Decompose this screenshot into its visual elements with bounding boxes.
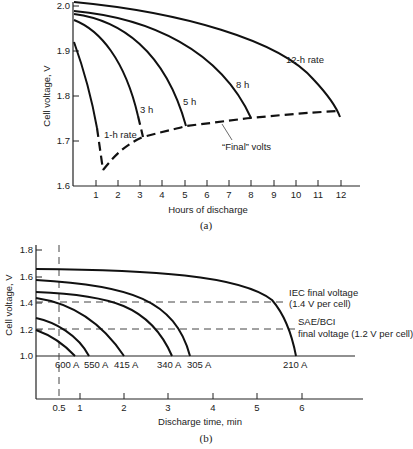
chart-b-ytick: 1.2 bbox=[20, 324, 33, 335]
chart-b-caption: (b) bbox=[200, 432, 213, 445]
chart-b-xtick: 4 bbox=[210, 402, 215, 413]
chart-a-ytick: 1.9 bbox=[57, 45, 70, 56]
chart-b-xtick: 6 bbox=[299, 402, 304, 413]
label-1h-rate: 1-h rate bbox=[104, 129, 137, 140]
label-8h: 8 h bbox=[236, 79, 249, 90]
label-final-volts: “Final” volts bbox=[222, 141, 271, 152]
chart-a-caption: (a) bbox=[200, 219, 213, 232]
chart-a-xtick: 7 bbox=[226, 189, 231, 200]
chart-b-ytick: 1.0 bbox=[20, 350, 33, 361]
chart-b-x-label: Discharge time, min bbox=[158, 416, 242, 427]
chart-a-xtick: 2 bbox=[115, 189, 120, 200]
chart-b-xtick: 2 bbox=[121, 402, 126, 413]
curve-340A bbox=[36, 292, 172, 356]
chart-a-xtick: 12 bbox=[336, 189, 347, 200]
curve-5h bbox=[74, 14, 186, 126]
label-iec-line2: (1.4 V per cell) bbox=[289, 298, 351, 309]
chart-a-ytick: 2.0 bbox=[57, 0, 70, 11]
chart-b-xtick: 3 bbox=[165, 402, 170, 413]
label-415A: 415 A bbox=[114, 359, 139, 370]
chart-b-ytick: 1.6 bbox=[20, 271, 33, 282]
label-3h: 3 h bbox=[140, 104, 153, 115]
chart-b: 1.8 1.6 1.4 1.2 1.0 0.5 1 2 3 4 5 6 Cell… bbox=[3, 244, 413, 445]
curve-1h bbox=[74, 42, 97, 128]
chart-a-ytick: 1.8 bbox=[57, 90, 70, 101]
label-sae-line2: final voltage (1.2 V per cell) bbox=[298, 328, 413, 339]
label-12h-rate: 12-h rate bbox=[286, 54, 324, 65]
chart-b-ytick: 1.4 bbox=[20, 297, 33, 308]
final-volts-leader bbox=[222, 124, 232, 140]
label-600A: 600 A bbox=[55, 359, 80, 370]
label-340A: 340 A bbox=[157, 359, 182, 370]
chart-a-y-label: Cell voltage, V bbox=[41, 65, 52, 127]
label-210A: 210 A bbox=[283, 359, 308, 370]
curve-1h-tail bbox=[97, 128, 103, 170]
chart-a-xtick: 6 bbox=[204, 189, 209, 200]
label-550A: 550 A bbox=[84, 359, 109, 370]
chart-b-xtick: 0.5 bbox=[52, 402, 65, 413]
curve-8h bbox=[74, 11, 251, 118]
chart-b-ytick: 1.8 bbox=[20, 244, 33, 255]
label-5h: 5 h bbox=[183, 96, 196, 107]
curve-415A bbox=[36, 298, 124, 356]
chart-a-xtick: 8 bbox=[248, 189, 253, 200]
chart-a: 2.0 1.9 1.8 1.7 1.6 1 2 3 4 5 6 7 8 9 10… bbox=[41, 0, 360, 232]
chart-a-ytick: 1.6 bbox=[57, 180, 70, 191]
chart-a-xtick: 10 bbox=[291, 189, 302, 200]
chart-a-xtick: 11 bbox=[313, 189, 323, 200]
label-305A: 305 A bbox=[187, 359, 212, 370]
curve-3h-tail bbox=[138, 116, 143, 137]
chart-b-xtick: 5 bbox=[254, 402, 259, 413]
label-sae-line1: SAE/BCI bbox=[298, 316, 336, 327]
chart-a-xtick: 5 bbox=[182, 189, 187, 200]
label-iec-line1: IEC final voltage bbox=[289, 287, 358, 298]
chart-a-xtick: 9 bbox=[271, 189, 276, 200]
curve-550A bbox=[36, 318, 89, 356]
figure: 2.0 1.9 1.8 1.7 1.6 1 2 3 4 5 6 7 8 9 10… bbox=[0, 0, 413, 449]
chart-a-ytick: 1.7 bbox=[57, 135, 70, 146]
chart-a-xtick: 1 bbox=[93, 189, 98, 200]
chart-b-xtick: 1 bbox=[77, 402, 82, 413]
chart-a-xtick: 3 bbox=[137, 189, 142, 200]
chart-a-xtick: 4 bbox=[159, 189, 164, 200]
chart-a-x-label: Hours of discharge bbox=[168, 204, 248, 215]
chart-b-y-label: Cell voltage, V bbox=[3, 274, 14, 336]
